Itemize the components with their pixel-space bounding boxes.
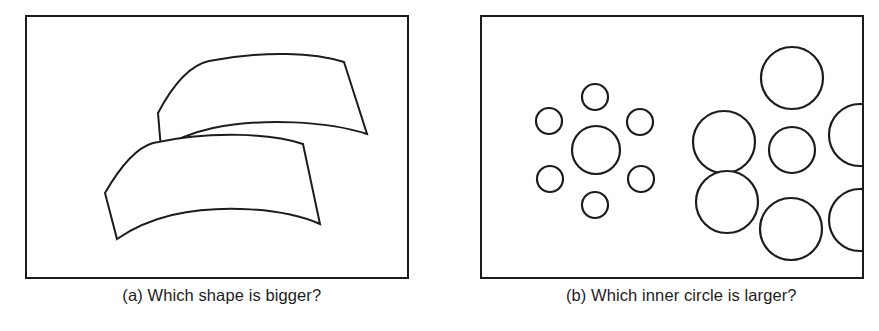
left-surrounder-circle bbox=[627, 109, 653, 135]
panel-a-border bbox=[25, 15, 409, 279]
right-inner-circle bbox=[769, 127, 815, 173]
right-surrounder-circle bbox=[760, 198, 822, 260]
right-surrounder-circle bbox=[829, 189, 862, 251]
right-surrounder-circle bbox=[693, 111, 755, 173]
subfigure-a: (a) Which shape is bigger? bbox=[0, 0, 440, 331]
left-surrounder-circle bbox=[536, 108, 562, 134]
left-surrounder-circle bbox=[537, 166, 563, 192]
left-inner-circle bbox=[572, 126, 620, 174]
right-surrounder-circle bbox=[761, 47, 823, 109]
left-surrounder-circle bbox=[582, 84, 608, 110]
jastrow-illusion-drawing bbox=[27, 17, 407, 277]
right-cluster bbox=[693, 47, 862, 260]
illusion-figure-row: (a) Which shape is bigger? bbox=[0, 0, 879, 331]
caption-b: (b) Which inner circle is larger? bbox=[440, 286, 879, 305]
lower-curved-shape bbox=[105, 135, 320, 239]
left-cluster bbox=[536, 84, 654, 218]
upper-curved-shape bbox=[158, 54, 367, 149]
left-surrounder-circle bbox=[628, 166, 654, 192]
right-surrounder-circle bbox=[696, 171, 758, 233]
panel-b-border bbox=[480, 15, 864, 279]
caption-a: (a) Which shape is bigger? bbox=[0, 286, 442, 305]
ebbinghaus-illusion-drawing bbox=[482, 17, 862, 277]
subfigure-b: (b) Which inner circle is larger? bbox=[440, 0, 879, 331]
right-surrounder-circle bbox=[829, 104, 862, 166]
left-surrounder-circle bbox=[582, 192, 608, 218]
